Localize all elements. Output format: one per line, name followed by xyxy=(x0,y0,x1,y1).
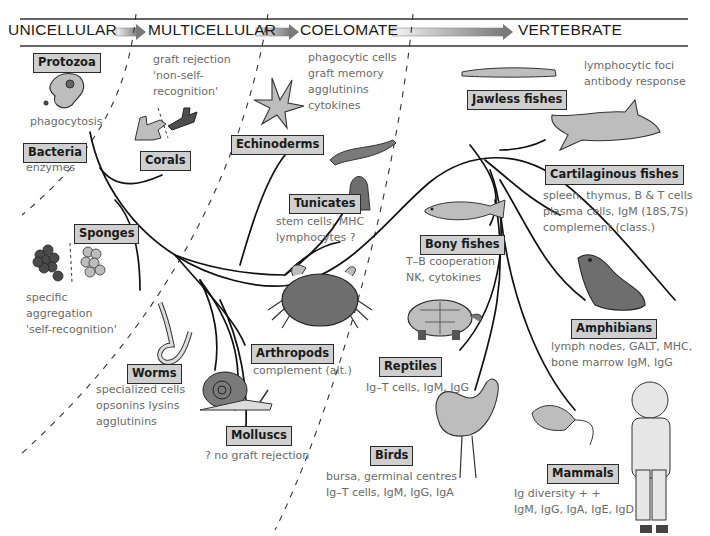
astronaut-icon xyxy=(632,382,670,533)
notes-mammals: Ig diversity + + IgM, IgG, IgA, IgE, IgD xyxy=(514,486,634,518)
turtle-icon xyxy=(408,300,482,340)
mouse-icon xyxy=(532,406,593,445)
label-molluscs: Molluscs xyxy=(226,426,292,446)
amoeba-icon xyxy=(44,74,84,108)
jawless-fish-icon xyxy=(462,68,556,77)
notes-vertebrate: lymphocytic foci antibody response xyxy=(584,58,686,90)
label-birds: Birds xyxy=(370,446,413,466)
notes-arthropods: complement (alt.) xyxy=(253,363,352,379)
stage-arrow-1 xyxy=(116,24,146,40)
notes-tunicates: stem cells, MHC lymphocytes ? xyxy=(276,214,364,246)
label-reptiles: Reptiles xyxy=(379,357,442,377)
stage-arrow-3 xyxy=(392,24,513,40)
label-protozoa: Protozoa xyxy=(33,53,101,73)
shark-icon xyxy=(552,100,660,150)
notes-amphibians: lymph nodes, GALT, MHC, bone marrow IgM,… xyxy=(551,339,692,371)
notes-cartilaginous-fishes: spleen, thymus, B & T cells plasma cells… xyxy=(543,188,692,236)
starfish-icon xyxy=(254,78,304,128)
coral-icon xyxy=(135,108,197,140)
label-tunicates: Tunicates xyxy=(289,194,361,214)
label-worms: Worms xyxy=(127,364,182,384)
notes-birds: bursa, germinal centres Ig–T cells, IgM,… xyxy=(326,469,457,501)
label-echinoderms: Echinoderms xyxy=(231,135,324,155)
eel-larva-icon xyxy=(330,140,396,165)
notes-bony-fishes: T–B cooperation NK, cytokines xyxy=(406,254,495,286)
stage-coelomate: COELOMATE xyxy=(300,21,398,39)
notes-bacteria: enzymes xyxy=(26,160,75,176)
notes-worms: specialized cells opsonins lysins agglut… xyxy=(96,382,185,430)
label-sponges: Sponges xyxy=(74,224,139,244)
stage-vertebrate: VERTEBRATE xyxy=(518,21,622,39)
stage-unicellular: UNICELLULAR xyxy=(8,21,117,39)
notes-protozoa: phagocytosis xyxy=(30,114,103,130)
notes-coelomate: phagocytic cells graft memory agglutinin… xyxy=(308,50,397,114)
notes-molluscs: ? no graft rejection xyxy=(205,448,309,464)
label-corals: Corals xyxy=(140,151,191,171)
notes-sponges: specific aggregation 'self-recognition' xyxy=(26,290,117,338)
label-arthropods: Arthropods xyxy=(251,344,334,364)
label-bony-fishes: Bony fishes xyxy=(420,235,505,255)
worm-icon xyxy=(160,303,190,362)
label-mammals: Mammals xyxy=(547,464,619,484)
label-cartilaginous-fishes: Cartilaginous fishes xyxy=(545,165,684,185)
stage-multicellular: MULTICELLULAR xyxy=(148,21,276,39)
sponge-cells-icon xyxy=(33,243,105,282)
notes-reptiles: Ig–T cells, IgM, IgG xyxy=(366,380,469,396)
frog-icon xyxy=(578,255,645,310)
label-amphibians: Amphibians xyxy=(571,319,657,339)
label-jawless-fishes: Jawless fishes xyxy=(467,90,567,110)
notes-multicellular: graft rejection 'non-self- recognition' xyxy=(153,52,231,100)
